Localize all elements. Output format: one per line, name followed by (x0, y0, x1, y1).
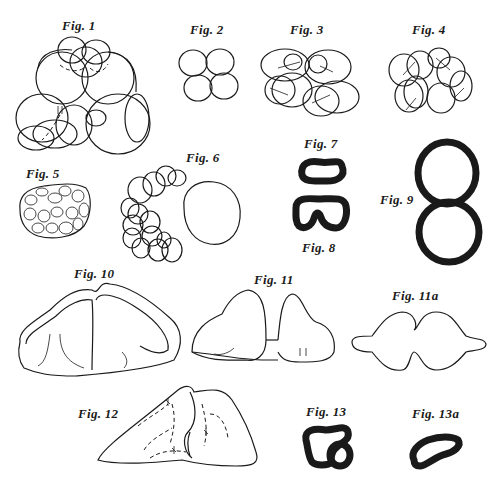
fig4-cell-cluster-drawing (389, 48, 472, 113)
fig8-invaginating-ring-drawing (296, 199, 347, 228)
fig13-coiled-epithelium-drawing (306, 428, 350, 466)
fig1-label: Fig. 1 (62, 18, 96, 34)
fig9-label: Fig. 9 (380, 192, 414, 208)
fig10-bilobed-outline-drawing (19, 283, 181, 376)
figure-plate: Fig. 1 Fig. 2 Fig. 3 Fig. 4 Fig. 5 Fig. … (0, 0, 501, 484)
fig4-label: Fig. 4 (412, 22, 446, 38)
fig2-four-cell-drawing (179, 49, 238, 101)
fig11-bilobed-outline-drawing (192, 290, 334, 362)
fig3-label: Fig. 3 (290, 22, 324, 38)
fig1-cell-cluster-drawing (16, 37, 150, 154)
fig5-label: Fig. 5 (26, 166, 60, 182)
fig9-double-ring-drawing (418, 142, 479, 262)
fig7-label: Fig. 7 (304, 136, 338, 152)
fig7-epithelial-ring-drawing (302, 161, 343, 181)
fig13a-epithelial-ring-drawing (413, 437, 459, 466)
fig2-label: Fig. 2 (190, 22, 224, 38)
fig10-label: Fig. 10 (74, 266, 114, 282)
fig12-triangular-embryo-drawing (98, 386, 257, 466)
fig8-label: Fig. 8 (302, 240, 336, 256)
fig11-label: Fig. 11 (254, 272, 294, 288)
fig11a-label: Fig. 11a (392, 288, 438, 304)
fig6-label: Fig. 6 (186, 150, 220, 166)
fig13a-label: Fig. 13a (412, 406, 459, 422)
fig5-morula-drawing (20, 184, 90, 238)
fig11a-dumbbell-outline-drawing (352, 312, 486, 370)
fig6-blastomeres-and-cell-drawing (121, 166, 240, 262)
fig12-label: Fig. 12 (78, 406, 118, 422)
fig3-cell-cluster-drawing (261, 49, 359, 116)
fig13-label: Fig. 13 (306, 404, 346, 420)
